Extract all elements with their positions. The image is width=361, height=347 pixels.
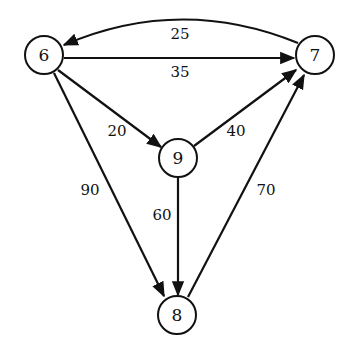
- weight-label-7-6: 25: [170, 25, 189, 43]
- graph-diagram: 25 35 20 40 90 60 70 6 7 9 8: [0, 0, 361, 347]
- node-6: 6: [25, 36, 63, 74]
- edge-6-8: [54, 73, 164, 296]
- weight-label-9-7: 40: [226, 122, 245, 140]
- weight-label-6-9: 20: [107, 122, 126, 140]
- weight-label-9-8: 60: [152, 206, 171, 224]
- node-label: 9: [173, 148, 184, 168]
- node-label: 8: [172, 305, 183, 325]
- node-label: 6: [39, 45, 50, 65]
- weight-label-6-8: 90: [80, 181, 99, 199]
- weight-label-6-7: 35: [170, 63, 189, 81]
- node-label: 7: [310, 45, 321, 65]
- node-7: 7: [296, 36, 334, 74]
- weight-label-8-7: 70: [256, 181, 275, 199]
- node-8: 8: [158, 296, 196, 334]
- node-9: 9: [159, 139, 197, 177]
